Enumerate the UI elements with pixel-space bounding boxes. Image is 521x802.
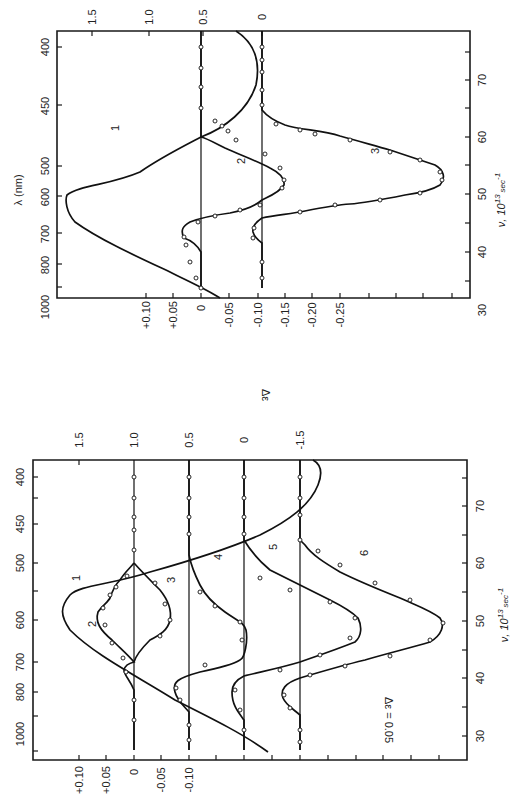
bottom-nu-axis: 70 60 50 40 30 ν, 1013sec-1 — [462, 478, 510, 742]
top-lambda-axis: 400 450 500 600 700 800 1000 λ (nm) — [12, 38, 62, 319]
lambda-tick-label: 500 — [39, 157, 51, 175]
nu-tick-label: 40 — [474, 672, 486, 684]
bottom-abs-tick-label: -1.5 — [294, 431, 306, 450]
nu-tick-label: 50 — [474, 615, 486, 627]
nu-tick-label: 70 — [476, 74, 488, 86]
top-curve-1 — [66, 31, 257, 298]
top-data-points — [182, 45, 444, 290]
de-tick-label: -0.15 — [279, 302, 291, 327]
svg-text:ν, 1013sec-1: ν, 1013sec-1 — [496, 588, 510, 642]
de-tick-label: -0.25 — [334, 302, 346, 327]
bottom-curve-label-2: 2 — [86, 621, 98, 627]
bottom-curve-label-4: 4 — [212, 554, 224, 560]
lambda-tick-label: 1000 — [39, 295, 51, 319]
nu-tick-label: 30 — [476, 304, 488, 316]
rotated-spectra-figure: 1.5 1.0 0.5 0 400 450 500 600 700 800 10… — [0, 0, 521, 802]
de-tick-label: -0.05 — [155, 767, 167, 792]
lambda-tick-label: 500 — [14, 554, 26, 572]
lambda-tick-label: 600 — [39, 188, 51, 206]
lambda-tick-label: 400 — [14, 468, 26, 486]
lambda-tick-label: 800 — [14, 683, 26, 701]
lambda-tick-label: 700 — [14, 653, 26, 671]
lambda-tick-label: 1000 — [14, 722, 26, 746]
nu-axis-label: ν, 1013sec-1 — [496, 588, 510, 642]
top-abs-tick-label: 1.5 — [86, 9, 98, 24]
bottom-lambda-axis: 400 450 500 600 700 800 1000 — [14, 468, 38, 751]
de-tick-label: +0.10 — [140, 301, 152, 329]
lambda-tick-label: 800 — [39, 256, 51, 274]
de-tick-label: -0.10 — [183, 767, 195, 792]
top-curve-2 — [182, 31, 284, 288]
top-curve-label-1: 1 — [109, 125, 121, 131]
bottom-curve-1 — [63, 460, 321, 752]
delta-epsilon-scale-annotation: Δε = 0.05 — [383, 697, 395, 743]
top-curve-label-3: 3 — [369, 148, 381, 154]
bottom-curve-label-5: 5 — [267, 544, 279, 550]
top-curve-3 — [253, 31, 444, 288]
de-tick-label: -0.10 — [252, 302, 264, 327]
top-panel: 1.5 1.0 0.5 0 400 450 500 600 700 800 10… — [12, 9, 507, 329]
de-tick-label: 0 — [195, 305, 207, 311]
bottom-curve-label-6: 6 — [358, 550, 370, 556]
lambda-tick-label: 450 — [14, 515, 26, 533]
top-abs-tick-label: 0 — [256, 14, 268, 20]
de-tick-label: -0.05 — [223, 302, 235, 327]
bottom-abs-tick-label: 0.5 — [183, 432, 195, 447]
de-tick-label: +0.05 — [100, 766, 112, 794]
nu-tick-label: 70 — [474, 500, 486, 512]
nu-tick-label: 40 — [476, 246, 488, 258]
de-tick-label: -0.20 — [306, 302, 318, 327]
bottom-abs-tick-label: 1.0 — [128, 432, 140, 447]
nu-tick-label: 30 — [474, 730, 486, 742]
nu-tick-label: 60 — [474, 557, 486, 569]
top-curve-label-2: 2 — [235, 158, 247, 164]
nu-axis-label: ν, 1013sec-1 — [493, 173, 507, 227]
lambda-tick-label: 400 — [39, 38, 51, 56]
bottom-panel-frame — [33, 460, 467, 760]
central-delta-epsilon-label: Δε — [260, 389, 272, 401]
bottom-panel: 1.5 1.0 0.5 0 -1.5 400 450 500 600 700 8… — [14, 431, 510, 794]
top-abs-tick-label: 1.0 — [143, 9, 155, 24]
lambda-axis-label: λ (nm) — [12, 174, 24, 205]
lambda-tick-label: 700 — [39, 225, 51, 243]
lambda-tick-label: 600 — [14, 611, 26, 629]
bottom-curve-label-3: 3 — [165, 577, 177, 583]
top-abs-tick-label: 0.5 — [197, 9, 209, 24]
bottom-curve-5 — [232, 460, 361, 750]
top-abs-ticks: 1.5 1.0 0.5 0 — [86, 9, 268, 36]
bottom-curve-label-1: 1 — [70, 575, 82, 581]
nu-tick-label: 60 — [476, 131, 488, 143]
de-tick-label: +0.05 — [167, 301, 179, 329]
de-tick-label: +0.10 — [73, 766, 85, 794]
bottom-abs-tick-label: 1.5 — [73, 432, 85, 447]
lambda-tick-label: 450 — [39, 97, 51, 115]
nu-tick-label: 50 — [476, 188, 488, 200]
bottom-de-axis: +0.10 +0.05 0 -0.05 -0.10 — [73, 755, 439, 794]
bottom-abs-tick-label: 0 — [238, 437, 250, 443]
top-nu-axis: 70 60 50 40 30 ν, 1013sec-1 — [465, 52, 507, 316]
de-tick-label: 0 — [128, 769, 140, 775]
svg-text:ν, 1013sec-1: ν, 1013sec-1 — [493, 173, 507, 227]
